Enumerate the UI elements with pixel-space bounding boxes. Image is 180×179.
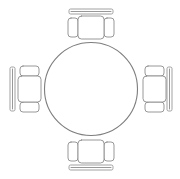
chair-south-armrest-right[interactable] xyxy=(104,142,114,161)
chair-south-armrest-left[interactable] xyxy=(68,142,78,161)
chair-south-group[interactable] xyxy=(68,140,114,170)
chair-east-seat[interactable] xyxy=(143,76,166,102)
chair-west-group[interactable] xyxy=(10,66,41,112)
chair-north-group[interactable] xyxy=(68,9,114,39)
chair-north-armrest-right[interactable] xyxy=(104,18,114,37)
plan-svg-root xyxy=(0,0,180,179)
chair-west-armrest-top[interactable] xyxy=(20,66,39,76)
round-table-outline[interactable] xyxy=(45,43,138,136)
chair-west-armrest-bottom[interactable] xyxy=(20,102,39,112)
chair-east-armrest-bottom[interactable] xyxy=(145,102,164,112)
chair-north-seat[interactable] xyxy=(78,16,104,39)
chair-east-armrest-top[interactable] xyxy=(145,66,164,76)
chair-south-seat[interactable] xyxy=(78,140,104,163)
chair-west-seat[interactable] xyxy=(18,76,41,102)
round-table-group[interactable] xyxy=(45,43,138,136)
furniture-plan-canvas: Round Table with Four Chairs xyxy=(0,0,180,179)
chair-north-armrest-left[interactable] xyxy=(68,18,78,37)
chair-east-group[interactable] xyxy=(143,66,172,112)
